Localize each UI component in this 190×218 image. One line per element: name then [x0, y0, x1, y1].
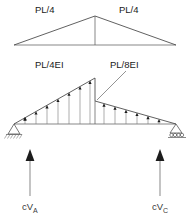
mei-left-slope [14, 78, 95, 124]
moment-left-label: PL/4 [35, 4, 55, 15]
bending-moment-diagram: PL/4 PL/4 [14, 4, 176, 45]
reaction-right-label: cVC [152, 201, 168, 214]
moment-left-slope [14, 16, 95, 45]
mei-right-label: PL/8EI [110, 59, 139, 70]
m-over-ei-diagram: PL/4EI PL/8EI [5, 59, 187, 139]
moment-right-slope [95, 16, 176, 45]
mei-right-label-leader [97, 71, 126, 100]
reaction-right-subscript: C [163, 207, 168, 214]
mei-right-hatching [104, 104, 159, 124]
mei-right-slope [95, 101, 176, 124]
reaction-left-arrowhead [26, 149, 35, 161]
reaction-right-prefix: cV [152, 201, 164, 212]
roller-support-right [168, 124, 186, 138]
moment-right-label: PL/4 [119, 4, 139, 15]
figure-root: PL/4 PL/4 [0, 0, 190, 218]
mei-left-label: PL/4EI [35, 59, 64, 70]
reaction-left-subscript: A [33, 207, 38, 214]
reaction-right: cVC [152, 149, 168, 214]
reaction-left-prefix: cV [22, 201, 34, 212]
pin-support-left [5, 124, 23, 139]
mei-right-arrowheads [102, 104, 160, 123]
reaction-left-label: cVA [22, 201, 38, 214]
mei-left-arrowheads [23, 81, 91, 121]
reaction-left: cVA [22, 149, 38, 214]
reaction-arrows: cVA cVC [22, 149, 168, 214]
structural-diagram: PL/4 PL/4 [0, 0, 190, 218]
reaction-right-arrowhead [156, 149, 165, 161]
